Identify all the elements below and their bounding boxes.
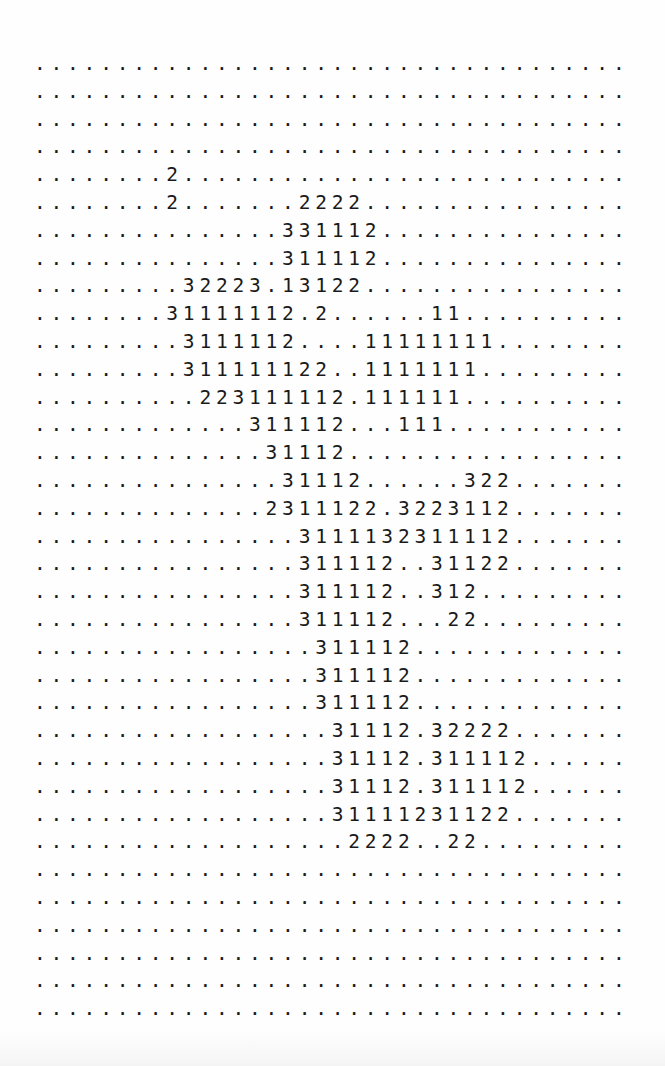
grid-row: ................311112...22......... — [34, 606, 629, 634]
grid-row: .................................... — [34, 967, 629, 995]
grid-row: .............311112...111........... — [34, 411, 629, 439]
grid-row: .........32223.13122................ — [34, 272, 629, 300]
grid-row: ..........223111112.111111.......... — [34, 384, 629, 412]
grid-row: ...............311112............... — [34, 245, 629, 273]
grid-row: .................................... — [34, 912, 629, 940]
grid-row: ................3111132311112....... — [34, 523, 629, 551]
grid-row: ..................31112.32222....... — [34, 717, 629, 745]
grid-row: .................................... — [34, 995, 629, 1023]
grid-row: .................311112............. — [34, 662, 629, 690]
grid-row: .................................... — [34, 106, 629, 134]
grid-row: .................................... — [34, 856, 629, 884]
grid-row: ...............331112............... — [34, 217, 629, 245]
grid-row: .................311112............. — [34, 634, 629, 662]
ascii-grid: ........................................… — [34, 50, 629, 1023]
scanned-page: ........................................… — [0, 0, 665, 1066]
grid-row: .................................... — [34, 884, 629, 912]
grid-row: ................311112..31122....... — [34, 550, 629, 578]
grid-row: ........2.......2222................ — [34, 189, 629, 217]
grid-row: ..............31112................. — [34, 439, 629, 467]
grid-row: ...................2222..22......... — [34, 828, 629, 856]
grid-row: ........2........................... — [34, 161, 629, 189]
scan-texture — [0, 1030, 665, 1066]
grid-row: ........31111112.2......11.......... — [34, 300, 629, 328]
grid-row: .................311112............. — [34, 689, 629, 717]
grid-row: .................................... — [34, 50, 629, 78]
grid-row: ..................31111231122....... — [34, 801, 629, 829]
grid-row: .........3111112....11111111........ — [34, 328, 629, 356]
grid-row: ..............2311122.3223112....... — [34, 495, 629, 523]
grid-row: .........311111122..1111111......... — [34, 356, 629, 384]
grid-row: .................................... — [34, 940, 629, 968]
grid-row: .................................... — [34, 78, 629, 106]
grid-row: ................311112..312......... — [34, 578, 629, 606]
grid-row: .................................... — [34, 133, 629, 161]
grid-row: ..................31112.311112...... — [34, 773, 629, 801]
grid-row: ...............31112......322....... — [34, 467, 629, 495]
grid-row: ..................31112.311112...... — [34, 745, 629, 773]
